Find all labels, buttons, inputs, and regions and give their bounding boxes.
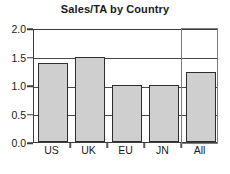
x-tick-mark bbox=[143, 143, 145, 148]
x-tick-label-us: US bbox=[44, 145, 59, 156]
y-tick-label: 2.0 bbox=[11, 24, 26, 35]
chart-title: Sales/TA by Country bbox=[0, 3, 230, 15]
bar-eu[interactable] bbox=[112, 85, 142, 142]
x-tick-label-jn: JN bbox=[156, 145, 169, 156]
y-tick-mark bbox=[27, 114, 33, 116]
y-axis: 0.00.51.01.52.0 bbox=[0, 29, 30, 143]
bar-jn[interactable] bbox=[149, 85, 179, 142]
x-tick-label-uk: UK bbox=[81, 145, 96, 156]
bar-us[interactable] bbox=[38, 63, 68, 142]
x-tick-label-all: All bbox=[194, 145, 206, 156]
plot-area bbox=[33, 29, 218, 143]
x-tick-mark bbox=[69, 143, 71, 148]
x-tick-mark bbox=[180, 143, 182, 148]
x-tick-mark bbox=[106, 143, 108, 148]
y-tick-label: 1.0 bbox=[11, 81, 26, 92]
y-tick-mark bbox=[27, 28, 33, 30]
y-tick-mark bbox=[27, 57, 33, 59]
gridline bbox=[34, 58, 217, 59]
x-tick-label-eu: EU bbox=[118, 145, 133, 156]
chart-container: Sales/TA by Country 0.00.51.01.52.0 USUK… bbox=[0, 0, 230, 174]
y-tick-label: 1.5 bbox=[11, 52, 26, 63]
y-tick-mark bbox=[27, 85, 33, 87]
bar-all[interactable] bbox=[186, 72, 216, 142]
y-tick-label: 0.5 bbox=[11, 109, 26, 120]
x-axis: USUKEUJNAll bbox=[33, 145, 218, 163]
bar-uk[interactable] bbox=[75, 57, 105, 143]
y-tick-label: 0.0 bbox=[11, 138, 26, 149]
y-tick-mark bbox=[27, 142, 33, 144]
